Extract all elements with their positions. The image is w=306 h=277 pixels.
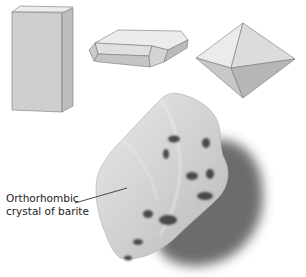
tabular-crystal-icon — [89, 30, 188, 67]
rectangular-prism-icon — [12, 6, 73, 112]
caption-line-1: Orthorhombic — [6, 192, 89, 205]
barite-crystal-figure — [0, 0, 306, 277]
dipyramid-icon — [196, 23, 295, 98]
specimen-caption: Orthorhombic crystal of barite — [6, 192, 89, 218]
caption-line-2: crystal of barite — [6, 205, 89, 218]
